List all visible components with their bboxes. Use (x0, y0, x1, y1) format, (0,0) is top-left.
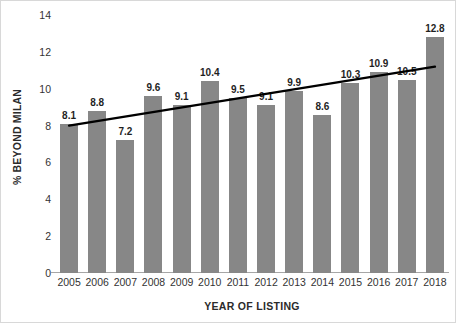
x-axis-tick: 2005 (57, 277, 80, 288)
bar-group[interactable]: 12.8 (421, 15, 449, 273)
bar[interactable] (144, 96, 162, 273)
bar-value-label: 9.6 (147, 83, 161, 93)
bar-chart: % BEYOND MILAN 02468101214 8.18.87.29.69… (0, 0, 456, 323)
x-axis-tick: 2010 (198, 277, 221, 288)
bar[interactable] (285, 91, 303, 273)
x-axis-tick: 2009 (170, 277, 193, 288)
bar[interactable] (313, 115, 331, 273)
bar-group[interactable]: 8.8 (83, 15, 111, 273)
y-axis-tick: 10 (27, 83, 51, 94)
bar-value-label: 9.1 (175, 92, 189, 102)
bar-value-label: 8.6 (315, 102, 329, 112)
y-axis-tick: 8 (27, 120, 51, 131)
bar[interactable] (370, 72, 388, 273)
y-axis-tick: 2 (27, 231, 51, 242)
bar-group[interactable]: 9.1 (252, 15, 280, 273)
plot-area: 8.18.87.29.69.110.49.59.19.98.610.310.91… (55, 15, 449, 273)
x-axis-tick: 2014 (311, 277, 334, 288)
bar[interactable] (341, 83, 359, 273)
x-axis-tick: 2011 (227, 277, 250, 288)
bar[interactable] (257, 105, 275, 273)
bar[interactable] (398, 80, 416, 274)
x-axis-tick: 2018 (423, 277, 446, 288)
x-axis-tick: 2015 (339, 277, 362, 288)
bar-value-label: 10.5 (397, 67, 416, 77)
bar-group[interactable]: 9.9 (280, 15, 308, 273)
y-axis-tick: 0 (27, 268, 51, 279)
bar[interactable] (173, 105, 191, 273)
x-axis-tick: 2007 (114, 277, 137, 288)
bar-value-label: 10.4 (200, 68, 219, 78)
bar-group[interactable]: 10.9 (365, 15, 393, 273)
x-axis-tick: 2013 (283, 277, 306, 288)
y-axis-tick: 12 (27, 47, 51, 58)
bar-value-label: 8.8 (90, 98, 104, 108)
bar-group[interactable]: 9.1 (168, 15, 196, 273)
bar-value-label: 10.3 (341, 70, 360, 80)
x-axis-tick: 2017 (395, 277, 418, 288)
y-axis-tick: 14 (27, 10, 51, 21)
bar[interactable] (116, 140, 134, 273)
bar-group[interactable]: 10.3 (336, 15, 364, 273)
bar-group[interactable]: 10.4 (196, 15, 224, 273)
bar[interactable] (60, 124, 78, 273)
bar[interactable] (88, 111, 106, 273)
x-axis-tick: 2012 (254, 277, 277, 288)
bar-value-label: 9.5 (231, 85, 245, 95)
bar-value-label: 8.1 (62, 111, 76, 121)
x-axis-title: YEAR OF LISTING (55, 300, 449, 312)
bar[interactable] (229, 98, 247, 273)
bar-group[interactable]: 10.5 (393, 15, 421, 273)
bar-value-label: 12.8 (425, 24, 444, 34)
y-axis-title-label: % BEYOND MILAN (11, 89, 23, 185)
bar-value-label: 9.1 (259, 92, 273, 102)
bar-group[interactable]: 9.6 (139, 15, 167, 273)
x-axis-tick: 2016 (367, 277, 390, 288)
bar[interactable] (426, 37, 444, 273)
x-axis-tick-labels: 2005200620072008200920102011201220132014… (55, 277, 449, 295)
bar-value-label: 7.2 (118, 127, 132, 137)
bar-group[interactable]: 7.2 (111, 15, 139, 273)
y-axis-tick: 4 (27, 194, 51, 205)
bar[interactable] (201, 81, 219, 273)
bar-value-label: 9.9 (287, 78, 301, 88)
y-axis-tick-labels: 02468101214 (23, 1, 51, 323)
y-axis-tick: 6 (27, 157, 51, 168)
bar-group[interactable]: 8.6 (308, 15, 336, 273)
bar-value-label: 10.9 (369, 59, 388, 69)
x-axis-tick: 2008 (142, 277, 165, 288)
bar-group[interactable]: 9.5 (224, 15, 252, 273)
x-axis-tick: 2006 (86, 277, 109, 288)
bar-group[interactable]: 8.1 (55, 15, 83, 273)
